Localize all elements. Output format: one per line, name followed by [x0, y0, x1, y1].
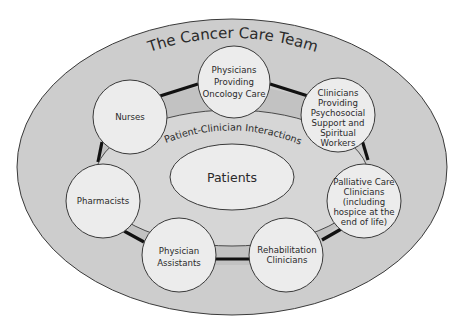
node-rehabilitation: Rehabilitation Clinicians — [249, 218, 323, 292]
node-nurses: Nurses — [93, 80, 167, 154]
svg-text:hospice at the: hospice at the — [333, 207, 394, 217]
svg-text:Assistants: Assistants — [157, 258, 201, 268]
node-physicians-oncology: Physicians Providing Oncology Care — [198, 46, 270, 118]
svg-text:Pharmacists: Pharmacists — [77, 196, 130, 206]
svg-text:Providing: Providing — [318, 98, 358, 108]
svg-text:Nurses: Nurses — [115, 112, 145, 122]
node-physician-assistants: Physician Assistants — [142, 218, 216, 292]
node-palliative-care: Palliative Care Clinicians (including ho… — [327, 164, 401, 238]
svg-text:Spiritual: Spiritual — [320, 128, 356, 138]
svg-text:Psychosocial: Psychosocial — [311, 108, 366, 118]
node-psychosocial-spiritual: Clinicians Providing Psychosocial Suppor… — [301, 78, 375, 152]
cancer-care-team-diagram: Patients The Cancer Care Team Patient-Cl… — [0, 0, 465, 323]
svg-text:Clinicians: Clinicians — [267, 255, 308, 265]
svg-text:Oncology Care: Oncology Care — [202, 89, 265, 99]
svg-text:Workers: Workers — [321, 138, 356, 148]
svg-text:Physician: Physician — [159, 246, 199, 256]
node-pharmacists: Pharmacists — [66, 164, 140, 238]
svg-text:(including: (including — [343, 197, 386, 207]
svg-text:Physicians: Physicians — [212, 65, 257, 75]
svg-text:Palliative Care: Palliative Care — [333, 177, 394, 187]
svg-text:Providing: Providing — [214, 77, 254, 87]
svg-text:Clinicians: Clinicians — [344, 187, 385, 197]
svg-text:Clinicians: Clinicians — [318, 88, 359, 98]
svg-text:Support and: Support and — [312, 118, 365, 128]
svg-text:Rehabilitation: Rehabilitation — [257, 245, 316, 255]
patients-label: Patients — [207, 170, 257, 185]
svg-text:end of life): end of life) — [341, 217, 387, 227]
